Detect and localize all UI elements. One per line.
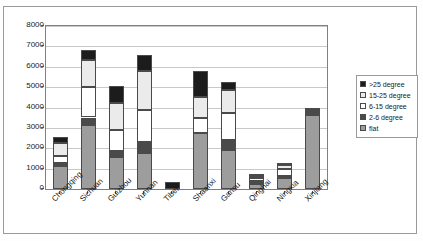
legend-label: >25 degree [369, 81, 405, 88]
bar-segment[interactable] [277, 165, 292, 168]
bar-segment[interactable] [193, 97, 208, 117]
y-tick-mark-2000 [41, 147, 44, 148]
bar-stack [109, 26, 124, 189]
y-axis: 800070006000500040003000200010000 [14, 19, 44, 197]
bar-group[interactable] [165, 26, 180, 189]
y-tick-mark-4000 [41, 107, 44, 108]
y-tick-mark-1000 [41, 168, 44, 169]
bar-segment[interactable] [109, 130, 124, 151]
bar-group[interactable] [53, 26, 68, 189]
bar-segment[interactable] [53, 137, 68, 143]
bar-segment[interactable] [81, 125, 96, 189]
bar-segment[interactable] [53, 156, 68, 164]
bar-segment[interactable] [109, 86, 124, 104]
bar-stack [277, 26, 292, 189]
bar-segment[interactable] [81, 118, 96, 125]
legend-swatch-6-15 [360, 103, 366, 109]
bar-group[interactable] [249, 26, 264, 189]
y-tick-mark-3000 [41, 127, 44, 128]
bar-group[interactable] [137, 26, 152, 189]
bar-stack [137, 26, 152, 189]
legend-swatch-2-6 [360, 114, 366, 120]
bar-segment[interactable] [249, 176, 264, 178]
legend-item[interactable]: >25 degree [360, 79, 414, 89]
y-tick-mark-7000 [41, 45, 44, 46]
bar-segment[interactable] [137, 71, 152, 109]
bar-segment[interactable] [277, 169, 292, 176]
bar-stack [81, 26, 96, 189]
bar-segment[interactable] [193, 71, 208, 97]
bar-stack [249, 26, 264, 189]
bar-group[interactable] [109, 26, 124, 189]
bar-segment[interactable] [277, 176, 292, 178]
legend-item[interactable]: 6-15 degree [360, 101, 414, 111]
bar-segment[interactable] [109, 151, 124, 157]
legend-label: 6-15 degree [369, 103, 407, 110]
bar-stack [193, 26, 208, 189]
bar-stack [53, 26, 68, 189]
bar-segment[interactable] [81, 87, 96, 118]
legend-item[interactable]: flat [360, 123, 414, 133]
bar-segment[interactable] [221, 90, 236, 113]
y-tick-mark-5000 [41, 86, 44, 87]
bar-segment[interactable] [249, 174, 264, 176]
bar-segment[interactable] [305, 115, 320, 189]
y-tick-mark-6000 [41, 66, 44, 67]
bar-group[interactable] [305, 26, 320, 189]
legend-swatch-flat [360, 125, 366, 131]
bar-group[interactable] [193, 26, 208, 189]
bar-segment[interactable] [137, 142, 152, 153]
x-axis: ChongqingSichuanGuizhouYunnanTibetShaanx… [45, 191, 328, 241]
legend-label: flat [369, 125, 378, 132]
bar-group[interactable] [221, 26, 236, 189]
bar-segment[interactable] [109, 103, 124, 129]
chart-legend: >25 degree15-25 degree6-15 degree2-6 deg… [356, 75, 418, 138]
y-tick-mark-0 [41, 188, 44, 189]
bars-layer [46, 26, 327, 189]
bar-segment[interactable] [305, 108, 320, 110]
bar-stack [165, 26, 180, 189]
bar-group[interactable] [81, 26, 96, 189]
bar-segment[interactable] [221, 113, 236, 141]
chart-frame: 800070006000500040003000200010000 Chongq… [3, 6, 417, 234]
bar-group[interactable] [277, 26, 292, 189]
bar-segment[interactable] [305, 112, 320, 114]
y-tick-mark-8000 [41, 25, 44, 26]
bar-stack [221, 26, 236, 189]
bar-segment[interactable] [53, 163, 68, 165]
legend-swatch-25 [360, 81, 366, 87]
legend-label: 15-25 degree [369, 92, 411, 99]
bar-segment[interactable] [137, 110, 152, 143]
legend-swatch-15-25 [360, 92, 366, 98]
chart-page: 800070006000500040003000200010000 Chongq… [0, 0, 423, 241]
bar-segment[interactable] [81, 50, 96, 60]
bar-segment[interactable] [53, 143, 68, 156]
bar-segment[interactable] [277, 163, 292, 165]
bar-segment[interactable] [193, 118, 208, 133]
bar-stack [305, 26, 320, 189]
bar-segment[interactable] [81, 60, 96, 86]
legend-item[interactable]: 15-25 degree [360, 90, 414, 100]
bar-segment[interactable] [221, 140, 236, 150]
bar-segment[interactable] [137, 55, 152, 71]
legend-label: 2-6 degree [369, 114, 403, 121]
plot-area [45, 25, 328, 190]
bar-segment[interactable] [221, 82, 236, 89]
legend-item[interactable]: 2-6 degree [360, 112, 414, 122]
